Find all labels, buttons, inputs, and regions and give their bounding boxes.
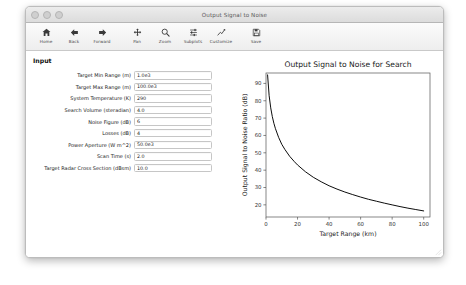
x-tick-label: 60 (357, 221, 364, 227)
home-icon (42, 26, 51, 38)
y-axis-label: Output Signal to Noise Ratio (dB) (241, 94, 249, 197)
traffic-lights (31, 11, 63, 19)
losses-field[interactable]: 4 (134, 129, 212, 138)
line-chart-icon (217, 26, 226, 38)
x-tick-label: 20 (294, 221, 301, 227)
y-tick-label: 90 (255, 80, 262, 86)
window-titlebar[interactable]: Output Signal to Noise (26, 7, 443, 23)
target-rcs-field[interactable]: 10.0 (134, 164, 212, 173)
power-aperture-row: Power Aperture (W m^2) 50.0e3 (31, 141, 212, 150)
window-content: Input Target Min Range (m) 1.0e3 Target … (26, 51, 443, 258)
zoom-tool-label: Zoom (159, 39, 171, 44)
floppy-disk-icon (252, 26, 261, 38)
desktop-background: Output Signal to Noise Home Back (0, 0, 466, 285)
y-tick-label: 70 (255, 115, 262, 121)
system-temperature-field[interactable]: 290 (134, 94, 212, 103)
noise-figure-field[interactable]: 6 (134, 117, 212, 126)
home-button[interactable]: Home (32, 25, 60, 44)
move-cross-icon (133, 26, 142, 38)
matplotlib-toolbar: Home Back Forward (26, 23, 443, 51)
power-aperture-field[interactable]: 50.0e3 (134, 141, 212, 150)
minimize-button[interactable] (43, 11, 51, 19)
forward-button[interactable]: Forward (88, 25, 116, 44)
target-min-range-row: Target Min Range (m) 1.0e3 (31, 71, 212, 80)
target-min-range-field[interactable]: 1.0e3 (134, 71, 212, 80)
save-group: Save (242, 25, 270, 44)
noise-figure-row: Noise Figure (dB) 6 (31, 117, 212, 126)
subplots-button-label: Subplots (184, 39, 203, 44)
save-button[interactable]: Save (242, 25, 270, 44)
chart-title: Output Signal to Noise for Search (285, 60, 412, 69)
application-window: Output Signal to Noise Home Back (25, 6, 444, 258)
losses-label: Losses (dB) (102, 130, 134, 136)
input-panel: Input Target Min Range (m) 1.0e3 Target … (26, 51, 216, 258)
y-tick-label: 20 (255, 202, 262, 208)
target-min-range-label: Target Min Range (m) (77, 72, 134, 78)
x-tick-label: 40 (326, 221, 333, 227)
target-max-range-label: Target Max Range (m) (76, 84, 134, 90)
scan-time-label: Scan Time (s) (97, 153, 134, 159)
x-tick-label: 80 (389, 221, 396, 227)
search-volume-row: Search Volume (steradian) 4.0 (31, 106, 212, 115)
scan-time-row: Scan Time (s) 2.0 (31, 152, 212, 161)
tools-group: Pan Zoom (123, 25, 235, 44)
target-max-range-field[interactable]: 100.0e3 (134, 83, 212, 92)
plot-panel[interactable]: 0204060801002030405060708090Output Signa… (216, 51, 443, 258)
snr-line-chart[interactable]: 0204060801002030405060708090Output Signa… (216, 51, 443, 258)
customize-button[interactable]: Customize (207, 25, 235, 44)
target-max-range-row: Target Max Range (m) 100.0e3 (31, 83, 212, 92)
nav-group: Home Back Forward (32, 25, 116, 44)
plot-frame (266, 73, 430, 217)
system-temperature-row: System Temperature (K) 290 (31, 94, 212, 103)
zoom-button[interactable] (55, 11, 63, 19)
arrow-right-icon (98, 26, 107, 38)
losses-row: Losses (dB) 4 (31, 129, 212, 138)
y-tick-label: 60 (255, 132, 262, 138)
save-button-label: Save (251, 39, 261, 44)
search-volume-field[interactable]: 4.0 (134, 106, 212, 115)
back-button-label: Back (69, 39, 79, 44)
search-volume-label: Search Volume (steradian) (65, 107, 134, 113)
power-aperture-label: Power Aperture (W m^2) (68, 142, 134, 148)
y-tick-label: 30 (255, 184, 262, 190)
y-tick-label: 40 (255, 167, 262, 173)
noise-figure-label: Noise Figure (dB) (88, 119, 134, 125)
scan-time-field[interactable]: 2.0 (134, 152, 212, 161)
back-button[interactable]: Back (60, 25, 88, 44)
y-tick-label: 80 (255, 98, 262, 104)
close-button[interactable] (31, 11, 39, 19)
input-panel-heading: Input (33, 57, 216, 64)
window-title: Output Signal to Noise (26, 12, 443, 18)
y-tick-label: 50 (255, 150, 262, 156)
pan-button-label: Pan (133, 39, 141, 44)
forward-button-label: Forward (93, 39, 110, 44)
target-rcs-row: Target Radar Cross Section (dBsm) 10.0 (31, 164, 212, 173)
target-rcs-label: Target Radar Cross Section (dBsm) (44, 165, 134, 171)
system-temperature-label: System Temperature (K) (70, 95, 134, 101)
home-button-label: Home (40, 39, 53, 44)
x-tick-label: 0 (264, 221, 268, 227)
magnifier-icon (161, 26, 170, 38)
subplots-button[interactable]: Subplots (179, 25, 207, 44)
sliders-icon (189, 26, 198, 38)
zoom-tool-button[interactable]: Zoom (151, 25, 179, 44)
x-tick-label: 100 (419, 221, 430, 227)
input-form: Target Min Range (m) 1.0e3 Target Max Ra… (31, 71, 216, 172)
arrow-left-icon (70, 26, 79, 38)
resize-handle[interactable] (433, 247, 442, 256)
x-axis-label: Target Range (km) (318, 230, 376, 238)
pan-button[interactable]: Pan (123, 25, 151, 44)
customize-button-label: Customize (210, 39, 232, 44)
